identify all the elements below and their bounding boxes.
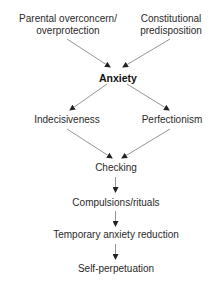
node-constitutional-line1: Constitutional	[131, 13, 211, 25]
edge-perfectionism-checking	[122, 129, 170, 158]
node-anxiety: Anxiety	[88, 72, 148, 84]
edges-layer	[0, 0, 213, 291]
edge-parental-anxiety	[67, 39, 110, 67]
node-parental-overconcern: Parental overconcern/ overprotection	[4, 13, 132, 37]
edge-indecisiveness-checking	[67, 129, 112, 158]
node-perfectionism: Perfectionism	[134, 114, 210, 126]
node-constitutional-line2: predisposition	[131, 25, 211, 37]
node-parental-line1: Parental overconcern/	[4, 13, 132, 25]
node-indecisiveness: Indecisiveness	[26, 114, 108, 126]
edge-constitutional-anxiety	[123, 39, 170, 67]
node-self-perpetuation: Self-perpetuation	[66, 263, 166, 275]
node-temporary-anxiety-reduction: Temporary anxiety reduction	[36, 229, 196, 241]
node-compulsions-rituals: Compulsions/rituals	[58, 197, 174, 209]
edge-anxiety-perfectionism	[127, 84, 169, 110]
edge-anxiety-indecisiveness	[70, 84, 107, 110]
node-constitutional-predisposition: Constitutional predisposition	[131, 13, 211, 37]
node-parental-line2: overprotection	[4, 25, 132, 37]
node-checking: Checking	[86, 162, 146, 174]
